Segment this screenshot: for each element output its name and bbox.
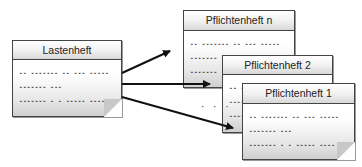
page-curl-icon bbox=[337, 142, 355, 160]
pflichtenheft-n-title: Pflichtenheft n bbox=[184, 11, 294, 31]
pflichtenheft-2-title: Pflichtenheft 2 bbox=[223, 56, 332, 75]
placeholder-text-line: -- ------- -- --- ----- bbox=[19, 66, 121, 80]
placeholder-text-line: -- ------- -- --- ----- bbox=[190, 37, 294, 51]
pflichtenheft-1-document: Pflichtenheft 1 -- ------- -- --- ----- … bbox=[242, 83, 355, 160]
arrow-to-pflichtenheft-n bbox=[122, 51, 170, 73]
page-curl-icon bbox=[104, 99, 122, 117]
pflichtenheft-1-title: Pflichtenheft 1 bbox=[243, 84, 354, 104]
lastenheft-document: Lastenheft -- ------- -- --- ----- -----… bbox=[12, 40, 122, 117]
ellipsis-more-documents: · · · bbox=[201, 101, 232, 112]
lastenheft-title: Lastenheft bbox=[13, 41, 121, 60]
placeholder-text-line: -- ------- -- --- ----- bbox=[249, 110, 354, 124]
placeholder-text-line: ------- --- bbox=[249, 124, 354, 138]
placeholder-text-line: ------- --- bbox=[19, 80, 121, 94]
